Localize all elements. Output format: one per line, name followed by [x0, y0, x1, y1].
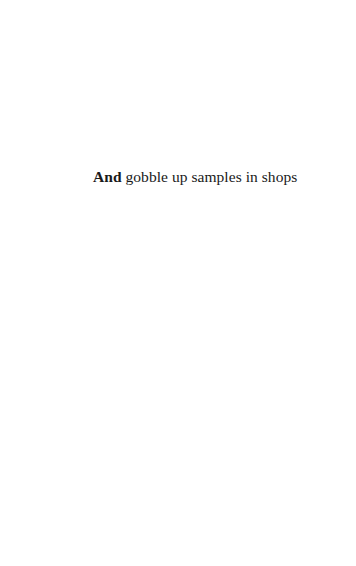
verse-lead-word: And	[93, 168, 122, 185]
verse-text: gobble up samples in shops	[122, 168, 298, 185]
book-page: And gobble up samples in shops	[0, 0, 356, 566]
verse-line: And gobble up samples in shops	[93, 168, 297, 186]
